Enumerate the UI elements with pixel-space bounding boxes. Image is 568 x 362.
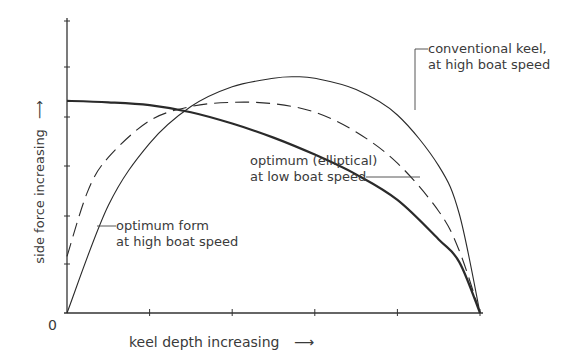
- annotation-optimum-form-line2: at high boat speed: [116, 234, 238, 249]
- annotation-elliptical-line2: at low boat speed: [250, 169, 366, 184]
- leader-conventional-keel: [415, 49, 428, 110]
- annotation-optimum-form-line1: optimum form: [116, 218, 209, 233]
- curve-optimum-form-high-speed: [67, 77, 480, 313]
- y-axis-label: side force increasing ⟶: [32, 100, 47, 263]
- annotation-conventional-keel-line2: at high boat speed: [428, 57, 550, 72]
- leader-lines: [97, 49, 428, 226]
- x-axis-arrow-icon: ⟶: [294, 334, 314, 350]
- y-axis-label-text: side force increasing: [32, 129, 47, 264]
- x-axis-label: keel depth increasing ⟶: [129, 335, 314, 350]
- curve-elliptical-low-speed: [67, 101, 480, 313]
- origin-label: 0: [48, 318, 57, 333]
- curves: [67, 77, 480, 313]
- y-axis-arrow-icon: ⟶: [32, 100, 47, 119]
- curve-conventional-keel-high-speed: [67, 102, 480, 313]
- annotation-conventional-keel-line1: conventional keel,: [428, 41, 547, 56]
- x-axis-label-text: keel depth increasing: [129, 334, 279, 350]
- annotation-elliptical-line1: optimum (elliptical): [250, 153, 377, 168]
